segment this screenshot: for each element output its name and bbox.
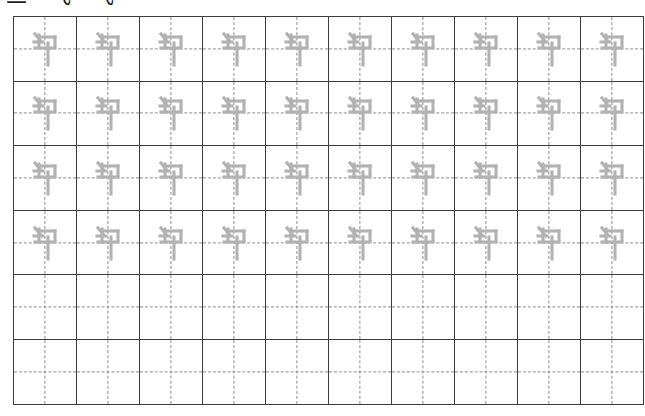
practice-cell-empty[interactable] bbox=[14, 275, 77, 340]
practice-cell-empty[interactable] bbox=[203, 275, 266, 340]
practice-cell-traced[interactable] bbox=[329, 210, 392, 275]
practice-cell-traced[interactable] bbox=[77, 81, 140, 146]
horizontal-guide-line bbox=[140, 371, 202, 372]
practice-cell-traced[interactable] bbox=[392, 210, 455, 275]
practice-cell-traced[interactable] bbox=[392, 17, 455, 82]
practice-cell-traced[interactable] bbox=[329, 146, 392, 211]
horizontal-guide-line bbox=[392, 48, 454, 49]
practice-cell-traced[interactable] bbox=[203, 17, 266, 82]
practice-cell-traced[interactable] bbox=[14, 146, 77, 211]
practice-cell-traced[interactable] bbox=[14, 210, 77, 275]
practice-cell-traced[interactable] bbox=[266, 210, 329, 275]
horizontal-guide-line bbox=[266, 371, 328, 372]
horizontal-guide-line bbox=[203, 48, 265, 49]
horizontal-guide-line bbox=[77, 113, 139, 114]
practice-cell-traced[interactable] bbox=[581, 210, 644, 275]
practice-cell-traced[interactable] bbox=[14, 17, 77, 82]
practice-cell-empty[interactable] bbox=[14, 339, 77, 404]
horizontal-guide-line bbox=[266, 113, 328, 114]
horizontal-guide-line bbox=[140, 113, 202, 114]
horizontal-guide-line bbox=[266, 48, 328, 49]
practice-cell-traced[interactable] bbox=[203, 81, 266, 146]
practice-cell-traced[interactable] bbox=[266, 146, 329, 211]
practice-cell-traced[interactable] bbox=[392, 146, 455, 211]
worksheet-header-text: 二 飞 飞 bbox=[6, 0, 122, 9]
practice-cell-traced[interactable] bbox=[581, 81, 644, 146]
practice-grid-row bbox=[14, 210, 644, 275]
practice-cell-empty[interactable] bbox=[77, 339, 140, 404]
practice-cell-empty[interactable] bbox=[266, 275, 329, 340]
horizontal-guide-line bbox=[203, 177, 265, 178]
practice-cell-traced[interactable] bbox=[140, 146, 203, 211]
horizontal-guide-line bbox=[140, 307, 202, 308]
horizontal-guide-line bbox=[329, 48, 391, 49]
horizontal-guide-line bbox=[77, 242, 139, 243]
horizontal-guide-line bbox=[329, 307, 391, 308]
horizontal-guide-line bbox=[455, 177, 517, 178]
horizontal-guide-line bbox=[140, 242, 202, 243]
practice-cell-traced[interactable] bbox=[329, 17, 392, 82]
practice-grid bbox=[13, 16, 644, 405]
horizontal-guide-line bbox=[329, 242, 391, 243]
practice-cell-empty[interactable] bbox=[140, 339, 203, 404]
practice-grid-body bbox=[14, 17, 644, 405]
practice-cell-traced[interactable] bbox=[518, 81, 581, 146]
practice-cell-empty[interactable] bbox=[455, 339, 518, 404]
practice-cell-empty[interactable] bbox=[581, 275, 644, 340]
practice-cell-empty[interactable] bbox=[392, 275, 455, 340]
practice-cell-traced[interactable] bbox=[455, 81, 518, 146]
horizontal-guide-line bbox=[77, 177, 139, 178]
practice-grid-row bbox=[14, 17, 644, 82]
practice-cell-traced[interactable] bbox=[77, 146, 140, 211]
horizontal-guide-line bbox=[266, 242, 328, 243]
horizontal-guide-line bbox=[518, 242, 580, 243]
horizontal-guide-line bbox=[392, 113, 454, 114]
horizontal-guide-line bbox=[581, 242, 643, 243]
practice-cell-empty[interactable] bbox=[77, 275, 140, 340]
practice-cell-traced[interactable] bbox=[455, 146, 518, 211]
practice-grid-row bbox=[14, 81, 644, 146]
practice-cell-traced[interactable] bbox=[581, 146, 644, 211]
practice-cell-traced[interactable] bbox=[14, 81, 77, 146]
practice-cell-traced[interactable] bbox=[140, 81, 203, 146]
horizontal-guide-line bbox=[140, 177, 202, 178]
horizontal-guide-line bbox=[455, 242, 517, 243]
practice-cell-traced[interactable] bbox=[329, 81, 392, 146]
practice-cell-empty[interactable] bbox=[581, 339, 644, 404]
practice-cell-traced[interactable] bbox=[455, 17, 518, 82]
horizontal-guide-line bbox=[392, 177, 454, 178]
practice-cell-traced[interactable] bbox=[140, 210, 203, 275]
practice-cell-empty[interactable] bbox=[455, 275, 518, 340]
practice-cell-traced[interactable] bbox=[266, 17, 329, 82]
practice-cell-traced[interactable] bbox=[203, 210, 266, 275]
horizontal-guide-line bbox=[392, 307, 454, 308]
practice-cell-traced[interactable] bbox=[518, 146, 581, 211]
horizontal-guide-line bbox=[581, 371, 643, 372]
practice-cell-traced[interactable] bbox=[203, 146, 266, 211]
horizontal-guide-line bbox=[518, 48, 580, 49]
practice-cell-traced[interactable] bbox=[518, 210, 581, 275]
horizontal-guide-line bbox=[581, 307, 643, 308]
practice-cell-empty[interactable] bbox=[266, 339, 329, 404]
practice-cell-empty[interactable] bbox=[203, 339, 266, 404]
practice-cell-traced[interactable] bbox=[140, 17, 203, 82]
horizontal-guide-line bbox=[14, 113, 76, 114]
practice-cell-traced[interactable] bbox=[581, 17, 644, 82]
practice-cell-empty[interactable] bbox=[329, 339, 392, 404]
practice-cell-traced[interactable] bbox=[266, 81, 329, 146]
practice-cell-empty[interactable] bbox=[329, 275, 392, 340]
practice-grid-row bbox=[14, 146, 644, 211]
horizontal-guide-line bbox=[140, 48, 202, 49]
horizontal-guide-line bbox=[77, 307, 139, 308]
practice-cell-traced[interactable] bbox=[77, 17, 140, 82]
practice-cell-traced[interactable] bbox=[455, 210, 518, 275]
practice-cell-traced[interactable] bbox=[392, 81, 455, 146]
practice-cell-empty[interactable] bbox=[518, 339, 581, 404]
practice-cell-empty[interactable] bbox=[518, 275, 581, 340]
practice-cell-empty[interactable] bbox=[140, 275, 203, 340]
practice-cell-traced[interactable] bbox=[518, 17, 581, 82]
practice-cell-traced[interactable] bbox=[77, 210, 140, 275]
horizontal-guide-line bbox=[203, 371, 265, 372]
horizontal-guide-line bbox=[518, 371, 580, 372]
practice-cell-empty[interactable] bbox=[392, 339, 455, 404]
